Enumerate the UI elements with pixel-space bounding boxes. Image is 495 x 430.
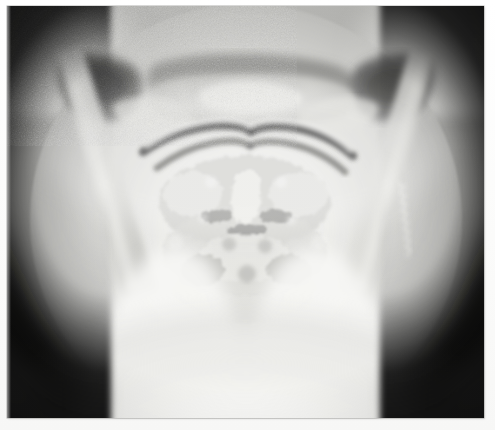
collimation-shadow-right — [380, 6, 484, 418]
page-root: open-mouth odontoid anteroposterior cerv… — [0, 0, 495, 430]
collimation-shadow-left — [7, 6, 111, 418]
radiograph-print: open-mouth odontoid anteroposterior cerv… — [7, 6, 484, 418]
